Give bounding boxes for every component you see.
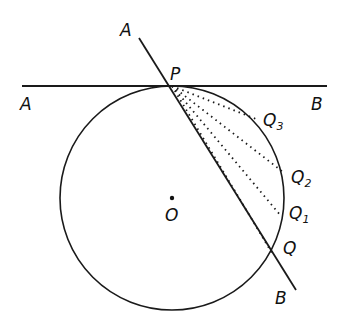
geometry-diagram: A B A B P O Q3 Q2 Q1 Q: [0, 0, 337, 321]
label-Q2: Q2: [291, 167, 311, 190]
label-secant-B: B: [275, 288, 287, 308]
label-tangent-B: B: [311, 94, 323, 114]
label-Q: Q: [283, 238, 296, 258]
label-O: O: [165, 205, 178, 225]
chord-PQ: [172, 86, 272, 253]
label-tangent-A: A: [19, 94, 32, 114]
label-Q1: Q1: [289, 203, 309, 226]
chord-PQ3: [172, 86, 256, 119]
label-Q3: Q3: [263, 110, 283, 133]
center-dot: [170, 196, 174, 200]
label-P: P: [170, 64, 181, 84]
chord-PQ1: [172, 86, 281, 216]
label-secant-A: A: [119, 20, 132, 40]
